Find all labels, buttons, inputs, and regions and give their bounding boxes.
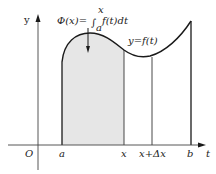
curve-label: y=f(t) <box>127 35 158 46</box>
tick-b: b <box>187 148 193 159</box>
tick-a: a <box>59 148 65 159</box>
formula-lhs: Φ(x)= <box>57 15 87 26</box>
integrand: f(t)dt <box>101 15 129 26</box>
integral-upper: x <box>98 4 104 15</box>
tick-x-plus-dx: x+Δx <box>139 148 166 159</box>
tick-x: x <box>121 148 127 159</box>
shaded-area <box>62 33 124 145</box>
y-axis-label: y <box>23 14 30 25</box>
y-axis-arrow-icon <box>36 14 41 22</box>
integral-diagram: y t O a x x+Δx b Φ(x)= ∫ x a f(t)dt y=f(… <box>0 0 216 174</box>
origin-label: O <box>25 148 33 159</box>
x-axis-label: t <box>206 148 211 159</box>
x-axis-arrow-icon <box>198 143 206 148</box>
